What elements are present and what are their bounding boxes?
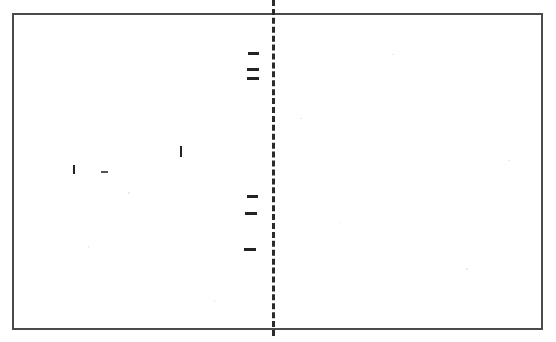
upper-dash-2 [247,68,259,71]
scan-speckle-1 [128,192,130,194]
scan-speckle-7 [508,160,510,161]
lower-dash-3 [244,248,256,251]
lower-dash-1 [247,195,258,198]
scan-speckle-3 [466,268,468,270]
scan-speckle-6 [88,246,89,248]
left-dash-1 [101,171,108,173]
left-tick-2 [180,146,182,157]
upper-dash-1 [248,52,259,55]
upper-dash-3 [247,77,259,80]
scan-speckle-4 [214,300,215,302]
scan-speckle-8 [340,222,341,223]
scan-speckle-2 [300,118,302,119]
outer-frame [12,13,543,330]
vertical-dashed-divider [272,0,275,336]
left-tick-1 [73,165,75,174]
scan-speckle-5 [392,54,394,55]
lower-dash-2 [245,212,257,215]
scanned-page-canvas [0,0,556,342]
